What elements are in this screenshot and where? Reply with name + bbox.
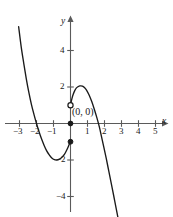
filled-dot-marker-lower: [68, 139, 73, 144]
filled-dot-marker-origin: [68, 121, 73, 126]
graph-figure: −3 −2 −1 1 2 3 4 5 4 2 −2 −4 x y (0, 0): [0, 0, 173, 217]
y-tick-label-2: 2: [60, 82, 65, 91]
x-tick-label-2: 2: [102, 127, 107, 136]
origin-point-label: (0, 0): [72, 107, 94, 117]
x-tick-label-neg1: −1: [47, 127, 57, 136]
y-tick-label-neg2: −2: [56, 155, 66, 164]
y-tick-label-neg4: −4: [56, 192, 66, 201]
x-tick-label-4: 4: [136, 127, 141, 136]
x-tick-label-neg2: −2: [30, 127, 40, 136]
x-tick-label-5: 5: [153, 127, 158, 136]
x-tick-label-3: 3: [119, 127, 124, 136]
y-tick-label-4: 4: [60, 46, 65, 55]
x-tick-label-neg3: −3: [13, 127, 23, 136]
x-tick-label-1: 1: [85, 127, 90, 136]
y-axis-label: y: [61, 17, 65, 27]
x-axis-label: x: [162, 117, 166, 127]
